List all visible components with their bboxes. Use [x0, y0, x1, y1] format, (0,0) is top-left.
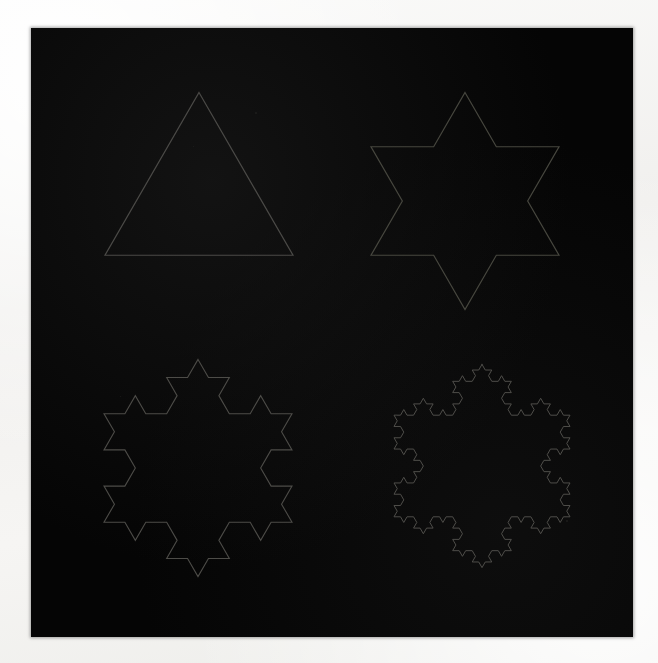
koch-curve-koch-snowflake-level-3	[394, 364, 570, 567]
panel-iteration-3	[332, 332, 633, 637]
koch-svg-iter-1	[332, 28, 633, 332]
figure-root	[0, 0, 658, 663]
panel-iteration-2	[31, 332, 332, 637]
koch-curve-koch-snowflake-level-2	[104, 359, 292, 576]
koch-curve-hexagram-star	[371, 92, 559, 309]
koch-curve-equilateral-triangle	[105, 92, 293, 255]
panel-iteration-1	[332, 28, 633, 332]
black-plate	[31, 28, 633, 637]
koch-svg-iter-2	[31, 332, 332, 637]
panel-iteration-0	[31, 28, 332, 332]
koch-svg-iter-0	[31, 28, 332, 332]
koch-svg-iter-3	[332, 332, 633, 637]
